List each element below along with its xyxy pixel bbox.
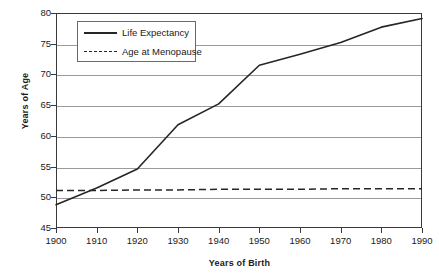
y-axis-tick-label: 50	[12, 192, 56, 202]
legend-item-life-expectancy: Life Expectancy	[78, 24, 195, 42]
legend-item-label: Age at Menopause	[122, 47, 202, 57]
x-axis-tick-mark	[137, 228, 138, 233]
x-axis-tick-label: 1910	[75, 236, 119, 246]
legend-item-label: Life Expectancy	[122, 28, 189, 38]
y-axis-tick-label: 80	[12, 8, 56, 18]
legend-item-age-at-menopause: Age at Menopause	[78, 43, 195, 61]
x-axis-tick-mark	[341, 228, 342, 233]
y-axis-tick-label: 60	[12, 131, 56, 141]
x-axis-tick-mark	[422, 228, 423, 233]
x-axis-tick-mark	[219, 228, 220, 233]
x-axis-title: Years of Birth	[56, 258, 423, 268]
x-axis-tick-label: 1990	[400, 236, 439, 246]
x-axis-tick-mark	[56, 228, 57, 233]
x-axis-tick-mark	[97, 228, 98, 233]
legend-solid-line-icon	[84, 28, 117, 38]
y-axis-tick-label: 70	[12, 69, 56, 79]
series-age-at-menopause-line	[56, 189, 422, 191]
y-axis-tick-label: 45	[12, 223, 56, 233]
x-axis-tick-label: 1900	[34, 236, 78, 246]
x-axis-tick-mark	[259, 228, 260, 233]
y-axis-tick-label: 55	[12, 162, 56, 172]
x-axis-tick-mark	[300, 228, 301, 233]
x-axis-tick-label: 1940	[197, 236, 241, 246]
legend-dashed-line-icon	[84, 47, 117, 57]
x-axis-tick-label: 1980	[359, 236, 403, 246]
chart-legend: Life Expectancy Age at Menopause	[77, 21, 196, 62]
x-axis-tick-mark	[381, 228, 382, 233]
x-axis-tick-label: 1950	[237, 236, 281, 246]
y-axis-tick-label: 75	[12, 39, 56, 49]
x-axis-tick-mark	[178, 228, 179, 233]
line-chart: Years of Age 4550556065707580 1900191019…	[0, 0, 439, 278]
y-axis-tick-label: 65	[12, 100, 56, 110]
x-axis-tick-label: 1930	[156, 236, 200, 246]
x-axis-tick-label: 1920	[115, 236, 159, 246]
x-axis-tick-label: 1970	[319, 236, 363, 246]
x-axis-tick-label: 1960	[278, 236, 322, 246]
